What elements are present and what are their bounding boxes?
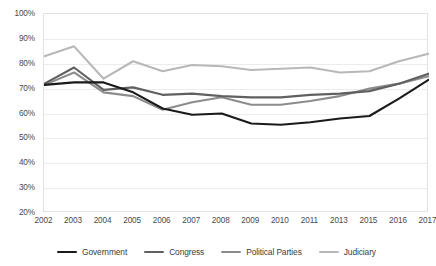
y-tick-label: 30%: [19, 183, 35, 192]
x-tick-label: 2013: [330, 216, 348, 225]
legend-swatch-icon: [144, 251, 164, 253]
legend-label: Judiciary: [344, 247, 376, 257]
legend-swatch-icon: [221, 251, 241, 253]
x-tick-label: 2017: [419, 216, 436, 225]
x-tick-label: 2004: [94, 216, 112, 225]
x-tick-label: 2006: [153, 216, 171, 225]
x-tick-label: 2010: [271, 216, 289, 225]
y-axis: 100%90%80%70%60%50%40%30%20%: [0, 13, 39, 212]
y-tick-label: 70%: [19, 83, 35, 92]
x-tick-label: 2016: [389, 216, 407, 225]
y-tick-label: 60%: [19, 108, 35, 117]
x-tick-label: 2008: [212, 216, 230, 225]
x-tick-label: 2003: [64, 216, 82, 225]
legend-label: Government: [82, 247, 127, 257]
x-tick-label: 2005: [123, 216, 141, 225]
legend-label: Congress: [169, 247, 204, 257]
chart-legend: GovernmentCongressPolitical PartiesJudic…: [0, 243, 433, 261]
y-tick-label: 100%: [14, 9, 35, 18]
legend-label: Political Parties: [246, 247, 302, 257]
x-tick-label: 2015: [360, 216, 378, 225]
x-tick-label: 2011: [301, 216, 318, 225]
legend-item[interactable]: Political Parties: [221, 247, 302, 257]
plot-area: [43, 13, 428, 212]
x-axis: 2002200320042005200620072008200920102011…: [43, 216, 428, 230]
y-tick-label: 80%: [19, 58, 35, 67]
legend-swatch-icon: [319, 251, 339, 253]
y-tick-label: 20%: [19, 208, 35, 217]
y-tick-label: 50%: [19, 133, 35, 142]
x-tick-label: 2007: [182, 216, 200, 225]
series-layer: [44, 14, 429, 213]
legend-item[interactable]: Judiciary: [319, 247, 376, 257]
x-tick-label: 2009: [241, 216, 259, 225]
y-tick-label: 90%: [19, 33, 35, 42]
legend-item[interactable]: Congress: [144, 247, 204, 257]
series-line-judiciary: [45, 46, 429, 78]
legend-item[interactable]: Government: [57, 247, 127, 257]
series-line-government: [45, 80, 429, 125]
legend-swatch-icon: [57, 251, 77, 253]
y-tick-label: 40%: [19, 158, 35, 167]
x-tick-label: 2002: [35, 216, 53, 225]
